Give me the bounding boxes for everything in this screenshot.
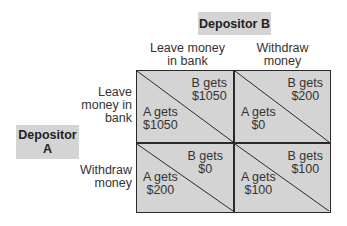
a-payoff: A gets $1050 [143, 106, 178, 132]
payoff-cell-withdraw-leave: B gets $0 A gets $200 [137, 144, 233, 211]
b-payoff-value: $1050 [192, 90, 227, 103]
a-payoff: A gets $200 [143, 171, 178, 197]
b-payoff-value: $0 [188, 163, 223, 176]
a-payoff: A gets $0 [241, 106, 276, 132]
payoff-cell-leave-withdraw: B gets $200 A gets $0 [235, 71, 329, 142]
depositor-a-text-line1: Depositor [18, 128, 76, 142]
depositor-a-text-line2: A [43, 142, 52, 156]
row-header-leave: Leave money in bank [70, 86, 132, 125]
a-payoff-value: $200 [143, 184, 178, 197]
a-payoff-value: $0 [241, 119, 276, 132]
b-payoff: B gets $100 [288, 150, 323, 176]
b-payoff: B gets $200 [288, 77, 323, 103]
depositor-b-text: Depositor B [199, 17, 270, 31]
depositor-a-label: Depositor A [16, 125, 79, 159]
column-header-withdraw: Withdraw money [235, 42, 330, 68]
depositor-b-label: Depositor B [198, 12, 271, 35]
a-payoff-value: $100 [241, 184, 276, 197]
b-payoff-value: $100 [288, 163, 323, 176]
column-header-leave: Leave money in bank [140, 42, 235, 68]
payoff-cell-withdraw-withdraw: B gets $100 A gets $100 [235, 144, 329, 211]
column-header-line: in bank [140, 55, 235, 68]
b-payoff: B gets $1050 [192, 77, 227, 103]
row-header-line: money [70, 177, 132, 190]
row-header-line: bank [70, 112, 132, 125]
row-header-withdraw: Withdraw money [70, 164, 132, 190]
column-header-line: money [235, 55, 330, 68]
payoff-matrix: B gets $1050 A gets $1050 B gets $200 A … [136, 70, 331, 213]
a-payoff-value: $1050 [143, 119, 178, 132]
b-payoff: B gets $0 [188, 150, 223, 176]
a-payoff: A gets $100 [241, 171, 276, 197]
b-payoff-value: $200 [288, 90, 323, 103]
payoff-cell-leave-leave: B gets $1050 A gets $1050 [137, 71, 233, 142]
grid-divider-horizontal [137, 142, 330, 144]
